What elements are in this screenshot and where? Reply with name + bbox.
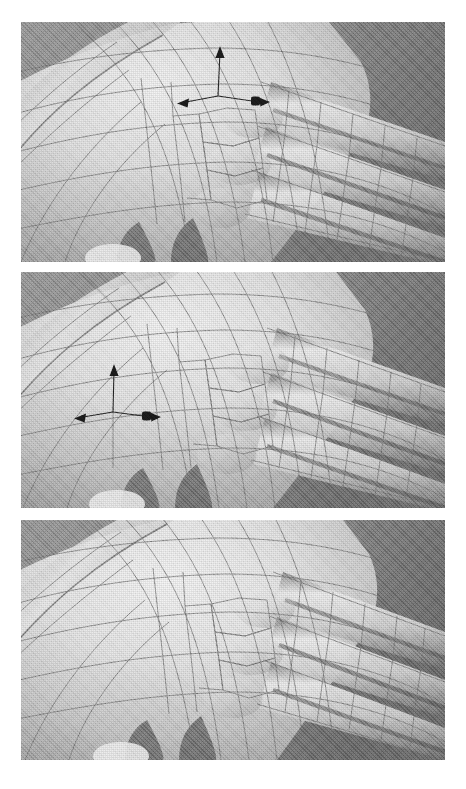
figure-root xyxy=(0,0,466,789)
viewport-panel-top[interactable] xyxy=(21,22,445,262)
viewport-panel-bottom[interactable] xyxy=(21,520,445,760)
hand-mesh-render-middle xyxy=(21,272,445,508)
hand-mesh-render-top xyxy=(21,22,445,262)
viewport-panel-middle[interactable] xyxy=(21,272,445,508)
hand-mesh-render-bottom xyxy=(21,520,445,760)
